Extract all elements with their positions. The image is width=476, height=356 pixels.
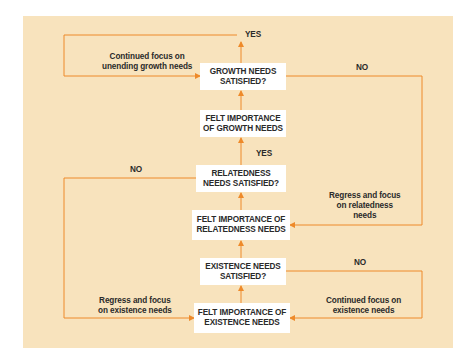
node-text: GROWTH NEEDS [210, 67, 277, 77]
regress-relatedness-label: Regress and focus on relatedness needs [329, 191, 401, 221]
label-line: Regress and focus [98, 296, 172, 306]
regress-existence-label: Regress and focus on existence needs [98, 296, 172, 316]
node-text: OF GROWTH NEEDS [203, 124, 283, 134]
node-text: FELT IMPORTANCE OF [198, 308, 286, 318]
label-line: unending growth needs [102, 62, 192, 72]
yes-label-top: YES [245, 30, 261, 40]
yes-label-mid: YES [256, 149, 272, 159]
node-text: EXISTENCE NEEDS [205, 262, 280, 272]
label-line: needs [329, 211, 401, 221]
node-text: NEEDS SATISFIED? [203, 179, 279, 189]
growth-needs-satisfied-decision: GROWTH NEEDS SATISFIED? [200, 63, 286, 90]
label-line: on existence needs [98, 306, 172, 316]
no-label-existence: NO [354, 258, 366, 268]
label-line: Continued focus on [102, 52, 192, 62]
no-label-relatedness: NO [130, 165, 142, 175]
felt-importance-existence-box: FELT IMPORTANCE OF EXISTENCE NEEDS [194, 303, 290, 333]
no-label-growth: NO [356, 63, 368, 73]
existence-needs-satisfied-decision: EXISTENCE NEEDS SATISFIED? [200, 258, 286, 285]
label-line: existence needs [326, 306, 401, 316]
node-text: FELT IMPORTANCE [205, 114, 280, 124]
label-line: on relatedness [329, 201, 401, 211]
node-text: FELT IMPORTANCE OF [197, 215, 285, 225]
node-text: SATISFIED? [220, 77, 266, 87]
node-text: EXISTENCE NEEDS [204, 318, 279, 328]
relatedness-needs-satisfied-decision: RELATEDNESS NEEDS SATISFIED? [196, 165, 286, 192]
label-line: Regress and focus [329, 191, 401, 201]
node-text: RELATEDNESS [211, 169, 270, 179]
continued-existence-label: Continued focus on existence needs [326, 296, 401, 316]
label-line: Continued focus on [326, 296, 401, 306]
node-text: RELATEDNESS NEEDS [196, 225, 285, 235]
felt-importance-growth-box: FELT IMPORTANCE OF GROWTH NEEDS [200, 110, 286, 137]
continued-growth-label: Continued focus on unending growth needs [102, 52, 192, 72]
node-text: SATISFIED? [220, 272, 266, 282]
felt-importance-relatedness-box: FELT IMPORTANCE OF RELATEDNESS NEEDS [192, 210, 290, 240]
